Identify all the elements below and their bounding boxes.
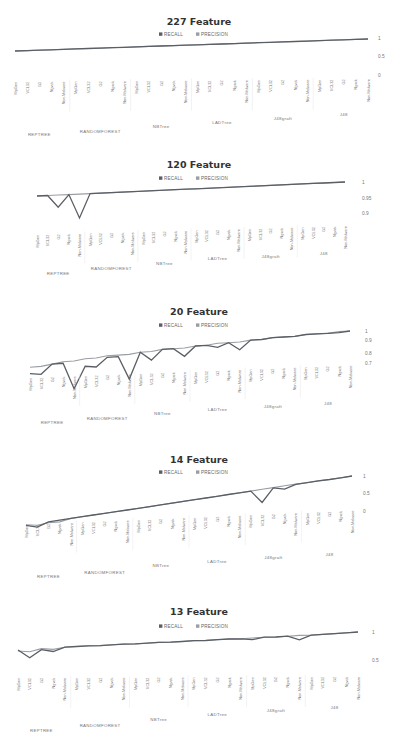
x-tick-label: Non-Malware [73, 376, 77, 399]
legend-recall: RECALL [164, 176, 183, 181]
x-tick-label: G2 [216, 230, 220, 235]
x-tick-label: G2 [51, 377, 55, 382]
x-tick-label: VCL32 [208, 81, 212, 93]
x-tick-label: Ngvck [110, 678, 114, 689]
legend-recall: RECALL [164, 624, 183, 629]
x-tick-label: Non-Malware [78, 234, 82, 257]
legend-precision: PRECISION [201, 624, 228, 629]
x-tick-label: MpGen [192, 677, 196, 689]
x-tick-label: VCL32 [40, 378, 44, 390]
x-tick-label: MpGen [306, 513, 310, 525]
x-tick-label: VCL32 [147, 81, 151, 93]
x-tick-label: VCL32 [87, 678, 91, 690]
x-group-label: RANDOMFOREST [84, 570, 125, 575]
x-tick-label: Ngvck [233, 80, 237, 91]
legend-precision: PRECISION [201, 470, 228, 475]
x-tick-label: VCL32 [99, 233, 103, 245]
legend-swatch-precision-icon [196, 470, 199, 473]
y-tick-label: 0.9 [362, 211, 369, 216]
y-tick-label: 0.5 [372, 658, 379, 663]
line-chart: 120 FeatureRECALLPRECISION10.950.9MpGenV… [0, 150, 399, 300]
x-tick-label: Non-Malware [123, 81, 127, 104]
x-tick-label: Non-Malware [298, 677, 302, 700]
x-tick-label: VCL32 [36, 525, 40, 537]
x-tick-label: G2 [271, 369, 275, 374]
y-tick-label: 0.5 [378, 54, 385, 59]
legend-swatch-recall-icon [159, 323, 162, 326]
legend-recall: RECALL [164, 470, 183, 475]
x-tick-label: Ngvck [227, 516, 231, 527]
y-tick-label: 0.9 [365, 338, 372, 343]
x-tick-label: MpGen [318, 80, 322, 92]
y-tick-label: 0.95 [362, 196, 372, 201]
x-tick-label: G2 [47, 524, 51, 529]
series-line-recall [37, 182, 345, 218]
x-tick-label: Non-Malware [63, 678, 67, 701]
x-tick-label: VCL32 [150, 373, 154, 385]
x-tick-label: Non-Malware [238, 370, 242, 393]
x-tick-label: Ngvck [345, 677, 349, 688]
x-tick-label: Ngvck [228, 677, 232, 688]
x-group-label: REPTREE [41, 420, 64, 425]
x-tick-label: Ngvck [58, 523, 62, 534]
x-tick-label: G2 [38, 82, 42, 87]
x-tick-label: G2 [57, 234, 61, 239]
legend-swatch-precision-icon [196, 176, 199, 179]
x-tick-label: VCL32 [152, 232, 156, 244]
x-group-label: J48 [340, 112, 348, 117]
x-tick-label: MpGen [310, 677, 314, 689]
x-group-label: J48graft [262, 254, 281, 259]
x-tick-label: MpGen [249, 369, 253, 381]
x-tick-label: MpGen [75, 678, 79, 690]
x-group-label: LADTree [208, 712, 228, 717]
x-tick-label: MpGen [84, 376, 88, 388]
x-tick-label: G2 [159, 519, 163, 524]
x-tick-label: Ngvck [286, 677, 290, 688]
x-tick-label: MpGen [251, 677, 255, 689]
x-tick-label: VCL32 [317, 512, 321, 524]
line-chart: 13 FeatureRECALLPRECISION10.5MpGenVCL32G… [0, 596, 399, 746]
x-tick-label: Ngvck [339, 511, 343, 522]
series-line-recall [18, 632, 358, 658]
x-tick-label: MpGen [248, 229, 252, 241]
x-tick-label: Ngvck [282, 368, 286, 379]
x-tick-label: MpGen [25, 525, 29, 537]
x-tick-label: G2 [328, 512, 332, 517]
legend-swatch-recall-icon [159, 176, 162, 179]
x-group-label: J48 [324, 401, 332, 406]
x-tick-label: VCL32 [204, 677, 208, 689]
x-tick-label: G2 [163, 231, 167, 236]
x-group-label: NBTree [153, 563, 170, 568]
x-tick-label: MpGen [134, 678, 138, 690]
x-tick-label: Ngvck [354, 79, 358, 90]
x-tick-label: Ngvck [169, 677, 173, 688]
x-tick-label: Non-Malware [62, 82, 66, 105]
chart-legend: RECALLPRECISION [159, 470, 228, 475]
x-tick-label: Non-Malware [290, 228, 294, 251]
x-tick-label: VCL32 [92, 522, 96, 534]
x-tick-label: G2 [326, 367, 330, 372]
x-tick-label: Non-Malware [122, 678, 126, 701]
legend-recall: RECALL [164, 32, 183, 37]
x-tick-label: VCL32 [28, 678, 32, 690]
x-tick-label: Ngvck [338, 366, 342, 377]
x-group-label: RANDOMFOREST [80, 129, 121, 134]
x-tick-label: Ngvck [174, 231, 178, 242]
x-tick-label: Non-Malware [349, 366, 353, 389]
line-chart: 20 FeatureRECALLPRECISION10.90.80.7MpGen… [0, 298, 399, 448]
x-tick-label: VCL32 [146, 678, 150, 690]
chart-title: 14 Feature [170, 454, 228, 465]
y-tick-label: 1 [365, 329, 368, 334]
x-tick-label: Ngvck [333, 226, 337, 237]
line-chart: 14 FeatureRECALLPRECISION10.50MpGenVCL32… [0, 447, 399, 597]
x-tick-label: G2 [333, 677, 337, 682]
x-tick-label: VCL32 [46, 235, 50, 247]
x-tick-label: Non-Malware [184, 81, 188, 104]
x-tick-label: Ngvck [62, 377, 66, 388]
x-tick-label: G2 [272, 514, 276, 519]
x-group-label: REPTREE [30, 728, 53, 733]
x-tick-label: MpGen [89, 234, 93, 246]
x-tick-label: VCL32 [26, 82, 30, 94]
x-tick-label: G2 [106, 375, 110, 380]
x-tick-label: Ngvck [121, 233, 125, 244]
